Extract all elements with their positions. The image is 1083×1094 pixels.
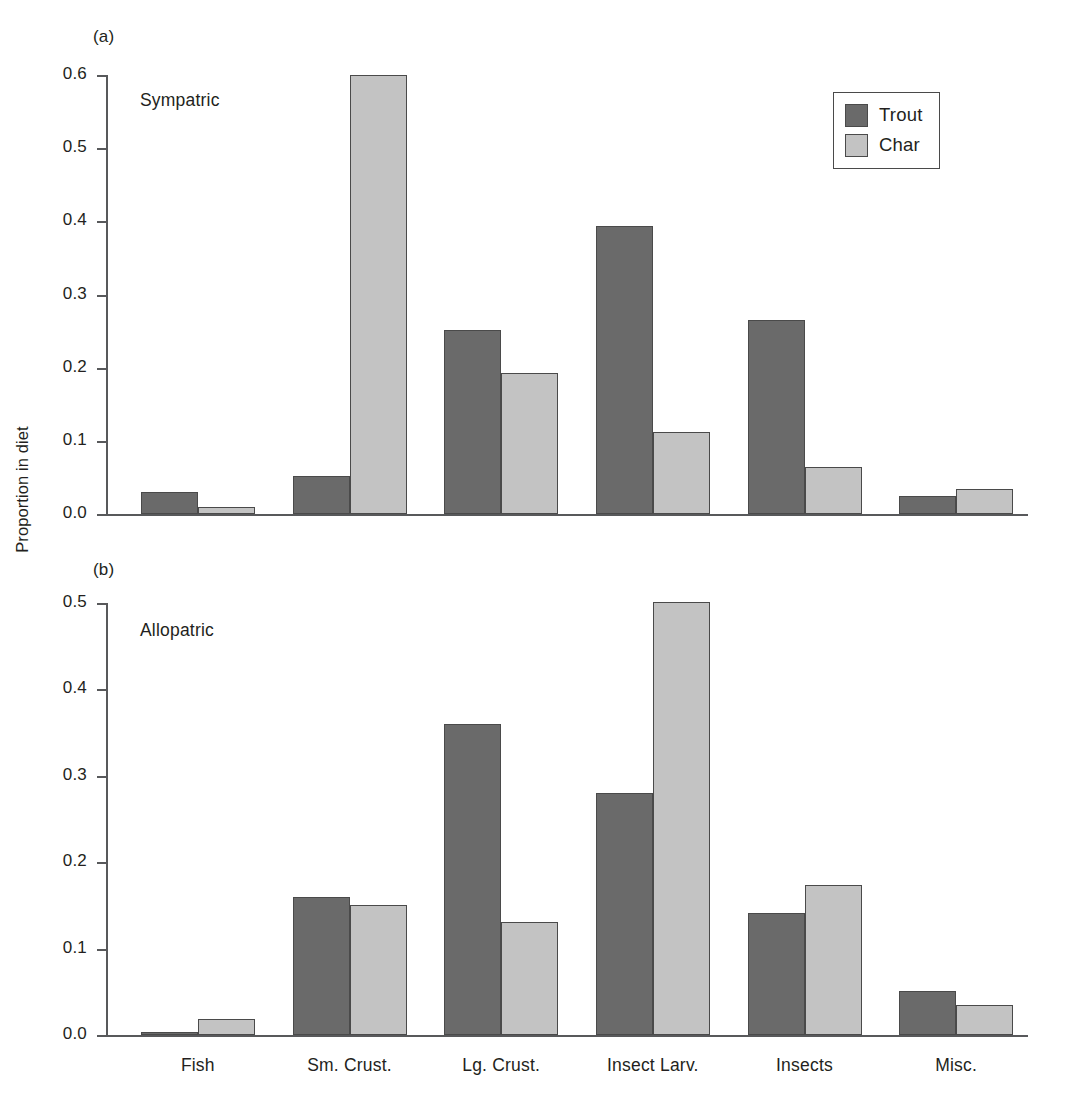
bar-a-trout-fish[interactable] (141, 492, 198, 514)
x-axis-label-insect-larv: Insect Larv. (577, 1055, 729, 1076)
legend-item-char[interactable]: Char (845, 130, 923, 160)
bar-a-char-sm-crust[interactable] (350, 75, 407, 514)
bar-a-trout-insect-larv[interactable] (596, 226, 653, 514)
bar-a-char-insects[interactable] (805, 467, 862, 514)
legend-label-trout: Trout (879, 104, 923, 126)
x-axis-label-misc: Misc. (880, 1055, 1032, 1076)
x-axis-label-insects: Insects (729, 1055, 881, 1076)
x-axis-label-fish: Fish (122, 1055, 274, 1076)
legend-label-char: Char (879, 134, 920, 156)
x-axis-label-sm-crust: Sm. Crust. (274, 1055, 426, 1076)
bar-a-trout-misc[interactable] (899, 496, 956, 514)
legend: Trout Char (833, 92, 940, 169)
bar-a-char-misc[interactable] (956, 489, 1013, 514)
legend-item-trout[interactable]: Trout (845, 100, 923, 130)
x-axis-label-lg-crust: Lg. Crust. (425, 1055, 577, 1076)
legend-swatch-char-icon (845, 134, 868, 157)
bar-a-char-lg-crust[interactable] (501, 373, 558, 514)
bar-a-trout-insects[interactable] (748, 320, 805, 514)
legend-swatch-trout-icon (845, 104, 868, 127)
panel-b-allopatric: (b) Allopatric 0.00.10.20.30.40.5 FishSm… (0, 548, 1083, 1094)
figure-bar-chart-diet-composition: Proportion in diet (a) Sympatric 0.00.10… (0, 0, 1083, 1094)
bar-a-trout-lg-crust[interactable] (444, 330, 501, 514)
bar-a-trout-sm-crust[interactable] (293, 476, 350, 514)
panel-a-sympatric: (a) Sympatric 0.00.10.20.30.40.50.6 (0, 0, 1083, 548)
panel-a-bars (0, 0, 1083, 548)
bar-a-char-insect-larv[interactable] (653, 432, 710, 514)
bar-a-char-fish[interactable] (198, 507, 255, 514)
x-axis-category-labels: FishSm. Crust.Lg. Crust.Insect Larv.Inse… (0, 548, 1083, 1094)
